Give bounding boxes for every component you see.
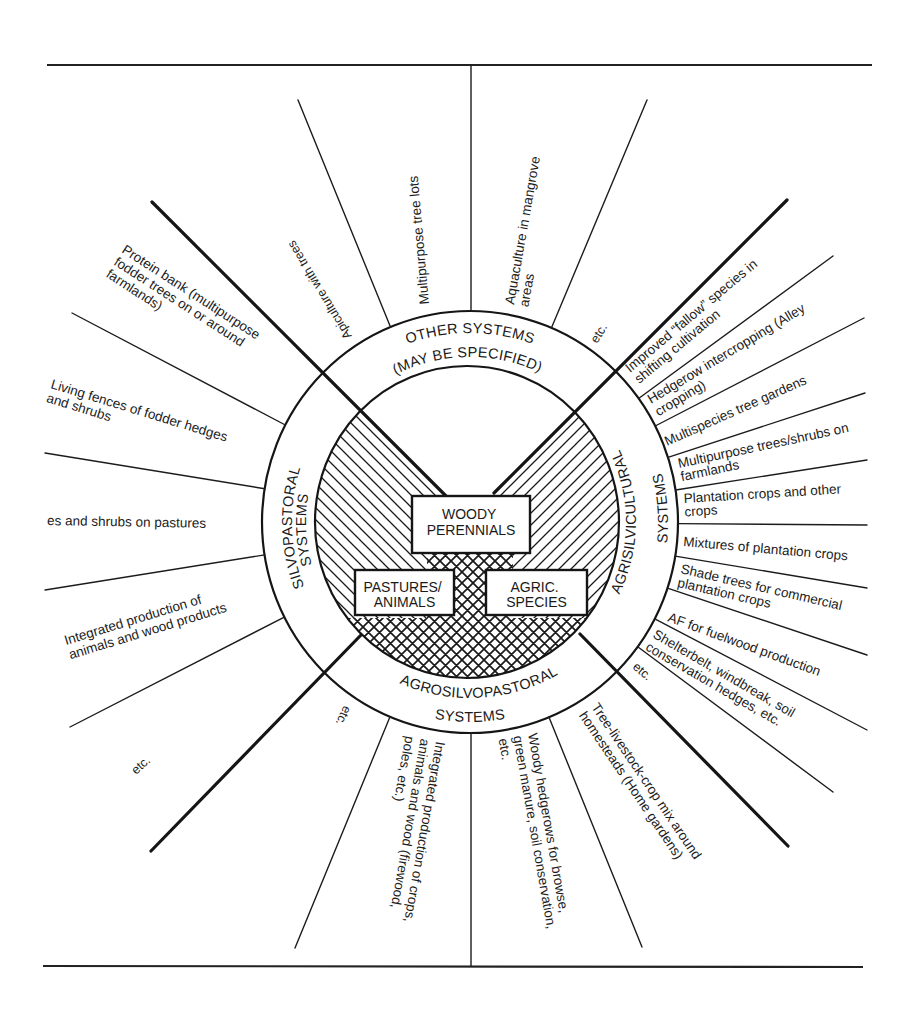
box-label-line: SPECIES: [506, 594, 567, 610]
agroforestry-systems-diagram: WOODY PERENNIALS PASTURES/ ANIMALS AGRIC…: [0, 0, 913, 1021]
practice-label-line: crops: [684, 502, 718, 519]
box-label-line: AGRIC.: [510, 579, 558, 595]
practice-label-trees-on-pastures: es and shrubs on pastures: [47, 513, 207, 531]
bottom-rule: [43, 966, 863, 967]
pastures-animals-label: PASTURES/ ANIMALS: [363, 579, 445, 610]
pastures-animals-box: PASTURES/ ANIMALS: [355, 570, 454, 615]
practice-label-line: es and shrubs on pastures: [47, 513, 207, 531]
box-label-line: PERENNIALS: [427, 522, 516, 538]
box-label-line: WOODY: [442, 506, 497, 522]
box-label-line: PASTURES/: [363, 579, 441, 595]
agric-species-label: AGRIC. SPECIES: [506, 579, 567, 610]
box-label-line: ANIMALS: [374, 594, 435, 610]
agric-species-box: AGRIC. SPECIES: [486, 570, 587, 615]
woody-perennials-box: WOODY PERENNIALS: [412, 496, 530, 553]
